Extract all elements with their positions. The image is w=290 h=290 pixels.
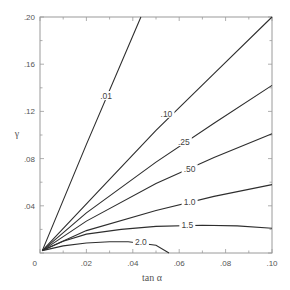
x-tick-label: .02 (81, 259, 93, 268)
chart: .02.04.06.08.10.04.08.12.16.20 .01.10.25… (0, 0, 290, 290)
curve-p01 (42, 17, 141, 251)
x-tick-label: .08 (220, 259, 232, 268)
curve-p50 (42, 134, 272, 251)
curve-label: 1.0 (184, 197, 196, 207)
x-axis-label: tan α (142, 272, 163, 283)
y-tick-label: .08 (24, 155, 36, 164)
y-axis-label: γ (14, 128, 20, 139)
contour-curves (42, 17, 272, 253)
curve-2p0 (42, 242, 169, 253)
plot-area-border (40, 17, 272, 253)
curve-label: 2.0 (135, 237, 147, 247)
curve-label: .10 (161, 109, 173, 119)
curve-label: .01 (100, 91, 112, 101)
y-tick-label: .20 (24, 13, 36, 22)
y-tick-label: .16 (24, 60, 36, 69)
curve-label: .25 (178, 137, 190, 147)
y-tick-label: .04 (24, 202, 36, 211)
origin-tick-label: 0 (33, 259, 38, 268)
y-tick-label: .12 (24, 107, 36, 116)
plot-frame (40, 17, 272, 253)
x-tick-label: .06 (174, 259, 186, 268)
curve-label: 1.5 (181, 220, 193, 230)
curve-1p5 (42, 225, 272, 250)
x-tick-label: .04 (127, 259, 139, 268)
curve-p10 (42, 17, 272, 251)
curve-1p0 (42, 185, 272, 251)
x-tick-label: .10 (266, 259, 278, 268)
curve-label: .50 (184, 164, 196, 174)
